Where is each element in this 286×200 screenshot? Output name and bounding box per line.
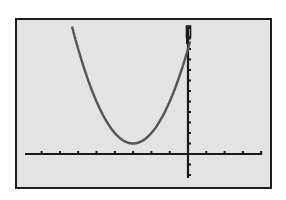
parabola-curve (72, 28, 190, 144)
graph-plot (0, 0, 286, 200)
axes (25, 27, 262, 178)
